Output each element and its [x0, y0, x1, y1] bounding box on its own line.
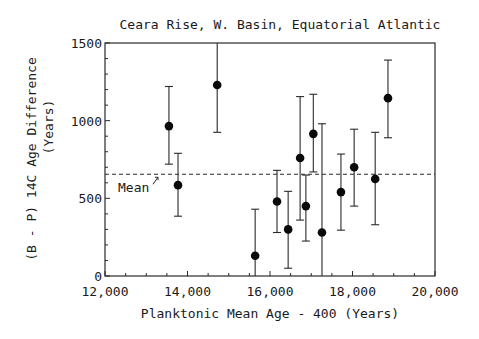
chart-title: Ceara Rise, W. Basin, Equatorial Atlanti…: [120, 17, 441, 32]
y-tick-label: 1500: [71, 36, 102, 51]
x-axis-ticks: 12,00014,00016,00018,00020,000: [82, 271, 459, 299]
data-point: [296, 97, 305, 220]
x-tick-label: 16,000: [247, 284, 294, 299]
x-tick-label: 12,000: [82, 284, 129, 299]
y-tick-label: 0: [94, 269, 102, 284]
y-axis-label-group: (B - P) 14C Age Difference (Years): [24, 57, 56, 261]
mean-label: Mean: [118, 180, 149, 195]
data-point: [309, 94, 318, 172]
data-point: [350, 129, 359, 206]
y-tick-label: 1000: [71, 114, 102, 129]
data-point: [273, 170, 282, 232]
data-point: [337, 154, 346, 230]
y-axis-label: (B - P) 14C Age Difference: [24, 57, 39, 261]
data-points: [165, 43, 393, 276]
y-axis-label-units: (Years): [41, 100, 56, 155]
data-point: [284, 191, 293, 268]
data-point: [302, 175, 311, 241]
plot-frame: [105, 43, 435, 276]
data-point: [251, 209, 260, 276]
data-point: [213, 43, 222, 132]
data-point: [371, 132, 380, 224]
x-axis-label: Planktonic Mean Age - 400 (Years): [141, 306, 399, 321]
x-tick-label: 14,000: [164, 284, 211, 299]
data-point: [174, 153, 183, 216]
data-point: [318, 124, 327, 276]
y-axis-ticks: 050010001500: [71, 36, 110, 284]
data-point: [165, 86, 174, 164]
x-tick-label: 20,000: [412, 284, 459, 299]
y-tick-label: 500: [79, 191, 102, 206]
scatter-chart: Ceara Rise, W. Basin, Equatorial Atlanti…: [0, 0, 479, 339]
mean-arrow-icon: [153, 177, 158, 184]
data-point: [384, 60, 393, 138]
x-tick-label: 18,000: [329, 284, 376, 299]
